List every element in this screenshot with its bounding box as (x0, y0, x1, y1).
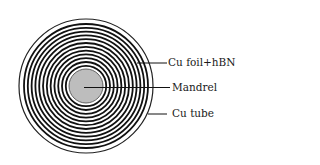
label-cu-foil-hbn: Cu foil+hBN (168, 57, 236, 68)
label-mandrel: Mandrel (172, 82, 217, 93)
mandrel-core (69, 69, 103, 103)
label-cu-tube: Cu tube (172, 108, 214, 119)
